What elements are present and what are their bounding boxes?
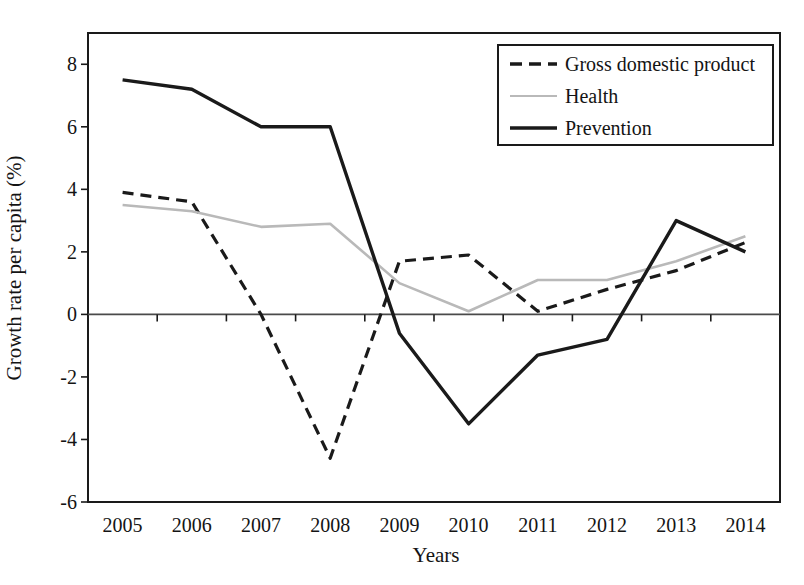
x-tick-label: 2007	[241, 514, 281, 536]
figure-container: 86420-2-4-620052006200720082009201020112…	[0, 0, 804, 585]
x-tick-label: 2012	[587, 514, 627, 536]
x-tick-label: 2011	[518, 514, 557, 536]
y-tick-label: -2	[60, 366, 77, 388]
y-tick-label: 2	[67, 241, 77, 263]
x-tick-label: 2010	[449, 514, 489, 536]
legend-label: Health	[565, 85, 618, 107]
x-tick-label: 2013	[656, 514, 696, 536]
y-tick-label: 8	[67, 53, 77, 75]
y-tick-label: -6	[60, 491, 77, 513]
x-tick-label: 2005	[103, 514, 143, 536]
y-tick-label: 6	[67, 116, 77, 138]
x-tick-label: 2009	[379, 514, 419, 536]
x-axis-title: Years	[413, 543, 460, 567]
y-tick-label: -4	[60, 428, 77, 450]
series-line-health	[123, 205, 746, 311]
legend-label: Prevention	[565, 117, 652, 139]
x-tick-label: 2014	[725, 514, 765, 536]
y-axis-title: Growth rate per capita (%)	[2, 155, 26, 380]
y-tick-label: 0	[67, 303, 77, 325]
series-line-gross-domestic-product	[123, 192, 746, 458]
y-tick-label: 4	[67, 178, 77, 200]
x-tick-label: 2006	[172, 514, 212, 536]
legend-label: Gross domestic product	[565, 53, 755, 76]
x-tick-label: 2008	[310, 514, 350, 536]
chart-generated-layer: 86420-2-4-620052006200720082009201020112…	[60, 33, 780, 536]
growth-rate-line-chart: 86420-2-4-620052006200720082009201020112…	[0, 0, 804, 585]
